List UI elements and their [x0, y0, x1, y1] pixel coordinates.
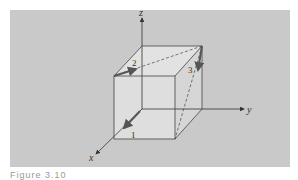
cube-front-face: [114, 76, 175, 139]
vector-1-label: 1: [131, 130, 136, 140]
figure-caption: Figure 3.10: [10, 170, 67, 180]
y-axis-label: y: [246, 104, 252, 115]
x-axis-label: x: [88, 152, 94, 163]
z-axis-label: z: [138, 7, 143, 18]
cube-vector-diagram: z y x 1 2 3: [0, 0, 298, 180]
vector-2-label: 2: [132, 58, 137, 68]
vector-3-label: 3: [188, 65, 193, 75]
